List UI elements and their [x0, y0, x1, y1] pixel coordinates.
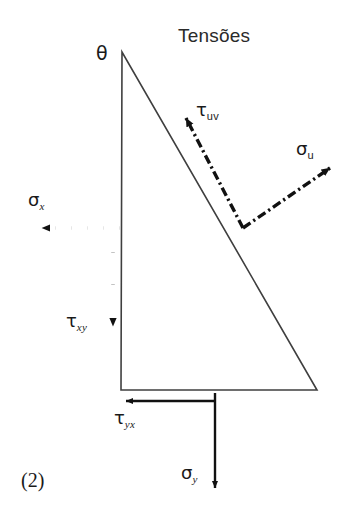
triangle-outline: [121, 52, 317, 390]
tau-yx-label: τyx: [114, 409, 135, 430]
sigma-y-label: σy: [181, 464, 198, 485]
sigma-y-symbol: σ: [181, 462, 192, 483]
sigma-u-subscript: u: [307, 149, 313, 161]
tau-uv-subscript: uv: [207, 110, 219, 122]
sigma-u-symbol: σ: [296, 138, 307, 159]
figure-canvas: [0, 0, 355, 521]
tau-xy-symbol: τ: [66, 310, 77, 331]
triangle-path: [121, 52, 317, 390]
tau-xy-label: τxy: [66, 312, 87, 333]
figure-number: (2): [21, 470, 44, 490]
sigma-x-subscript: x: [39, 200, 44, 212]
tau-uv-label: τuv: [196, 101, 219, 122]
sigma-u-arrow: [243, 168, 330, 228]
sigma-u-label: σu: [296, 140, 314, 161]
tau-yx-subscript: yx: [125, 418, 135, 430]
tau-yx-symbol: τ: [114, 407, 125, 428]
figure-title: Tensões: [178, 26, 250, 45]
tau-uv-symbol: τ: [196, 99, 207, 120]
sigma-x-symbol: σ: [28, 189, 39, 210]
sigma-y-subscript: y: [192, 473, 197, 485]
stress-element-figure: Tensões θ τuv σu σx τxy τyx σy (2): [0, 0, 355, 521]
theta-angle-label: θ: [96, 44, 108, 63]
sigma-x-label: σx: [28, 191, 45, 212]
tau-xy-subscript: xy: [77, 321, 87, 333]
